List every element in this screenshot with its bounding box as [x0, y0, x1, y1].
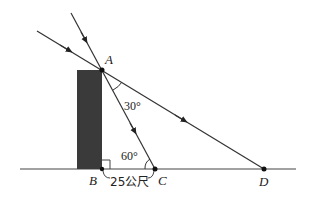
sun-ray-shallow	[37, 31, 264, 169]
angle-arc-C	[145, 159, 150, 169]
arrow-ray-steep-1	[81, 32, 86, 41]
point-C	[153, 167, 158, 172]
angle-arc-A	[113, 82, 122, 90]
label-D: D	[258, 174, 269, 189]
point-A	[100, 68, 105, 73]
label-B: B	[89, 173, 97, 188]
diagram-canvas: A B C D 30° 60° 25公尺	[0, 0, 313, 198]
angle-label-C: 60°	[121, 149, 138, 163]
point-B	[100, 167, 104, 171]
point-D	[262, 167, 267, 172]
label-A: A	[104, 52, 113, 67]
arrow-ray-shallow-1	[60, 45, 70, 51]
arrow-ray-steep-2	[130, 123, 135, 132]
distance-label-BC: 25公尺	[110, 175, 149, 189]
arrow-ray-shallow-2	[175, 115, 185, 121]
angle-label-A: 30°	[124, 99, 141, 113]
label-C: C	[158, 173, 167, 188]
building	[77, 70, 102, 169]
geometry-diagram: A B C D 30° 60° 25公尺	[0, 0, 313, 198]
